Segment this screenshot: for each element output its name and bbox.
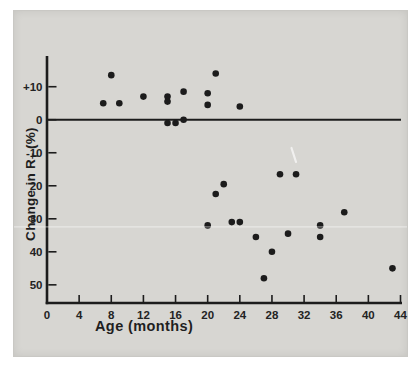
data-point <box>204 222 211 229</box>
x-tick-label: 4 <box>76 309 83 321</box>
data-point <box>172 120 179 127</box>
x-tick-label: 40 <box>362 309 375 321</box>
x-axis-title: Age (months) <box>95 318 193 334</box>
x-tick-label: 20 <box>201 309 214 321</box>
y-axis-title: Change in RT (%) <box>23 127 38 241</box>
scan-artifact-scratch <box>292 148 297 162</box>
data-point <box>269 249 276 256</box>
data-point <box>277 171 284 178</box>
data-point <box>204 102 211 109</box>
x-tick-label: 24 <box>233 309 246 321</box>
data-point <box>164 120 171 127</box>
data-point <box>164 98 171 105</box>
data-point <box>228 219 235 226</box>
data-point <box>108 72 115 79</box>
y-tick-label: +10 <box>23 81 43 93</box>
data-point <box>261 275 268 282</box>
x-tick-label: 36 <box>330 309 343 321</box>
scanned-figure-page: { "figure": { "page_background": "#fffff… <box>0 0 416 368</box>
data-point <box>237 219 244 226</box>
data-point <box>180 88 187 95</box>
data-point <box>317 234 324 241</box>
x-tick-label: 44 <box>394 309 407 321</box>
data-point <box>180 116 187 123</box>
y-axis-title-unit: (%) <box>23 127 38 153</box>
data-point <box>317 222 324 229</box>
y-tick-label: 50 <box>30 279 43 291</box>
data-point <box>293 171 300 178</box>
x-tick-label: 28 <box>266 309 279 321</box>
data-point <box>220 181 227 188</box>
data-point <box>204 90 211 97</box>
y-axis-title-main: Change in R <box>23 159 38 241</box>
data-point <box>341 209 348 216</box>
x-tick-label: 0 <box>44 309 50 321</box>
data-point <box>253 234 260 241</box>
x-tick-label: 32 <box>298 309 311 321</box>
scatter-plot: 048121620242832364044+100-1020304050 <box>0 0 416 368</box>
y-tick-label: 40 <box>30 246 43 258</box>
data-point <box>389 265 396 272</box>
data-point <box>140 93 147 100</box>
data-point <box>116 100 123 107</box>
data-point <box>100 100 107 107</box>
y-tick-label: 0 <box>36 114 42 126</box>
data-point <box>212 191 219 198</box>
data-point <box>237 103 244 110</box>
y-axis-title-subscript: T <box>30 153 40 159</box>
data-point <box>285 230 292 237</box>
data-point <box>212 70 219 77</box>
